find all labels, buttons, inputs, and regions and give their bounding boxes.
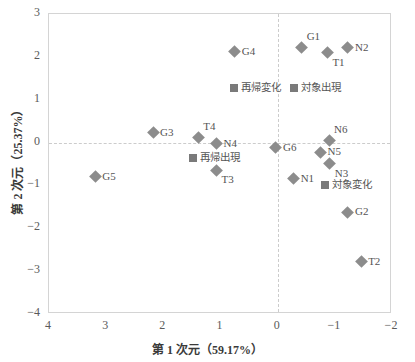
diamond-marker-icon — [295, 41, 308, 54]
diamond-marker-icon — [355, 255, 368, 268]
data-point-label: T4 — [203, 121, 215, 132]
x-tick-label: −2 — [371, 318, 411, 333]
data-point-label: T1 — [332, 57, 344, 68]
data-point-label: G4 — [242, 46, 255, 57]
x-tick-label: 4 — [28, 318, 68, 333]
y-tick-label: 3 — [8, 5, 40, 20]
data-point-label: 再帰出現 — [200, 152, 240, 163]
diamond-marker-icon — [89, 170, 102, 183]
data-point-label: T3 — [221, 174, 233, 185]
diamond-marker-icon — [342, 206, 355, 219]
data-point-label: T2 — [368, 256, 380, 267]
data-point-label: N2 — [355, 42, 368, 53]
diamond-marker-icon — [287, 172, 300, 185]
diamond-marker-icon — [228, 45, 241, 58]
x-tick-label: 2 — [142, 318, 182, 333]
diamond-marker-icon — [342, 41, 355, 54]
gridline-x-zero — [278, 14, 279, 312]
x-tick-label: 0 — [257, 318, 297, 333]
data-point-label: 対象出現 — [301, 82, 341, 93]
data-point-label: G2 — [355, 206, 368, 217]
scatter-chart: G4G1T1N2G3T4N4T3G6N6N5N3N1G5G2T2再帰変化対象出現… — [0, 0, 415, 362]
y-tick-label: −4 — [8, 305, 40, 320]
data-point-label: N1 — [301, 173, 314, 184]
square-marker-icon — [290, 84, 298, 92]
x-tick-label: −1 — [314, 318, 354, 333]
data-point-label: N3 — [335, 168, 348, 179]
y-axis-title: 第 2 次元（25.37%） — [8, 49, 26, 269]
data-point-label: N5 — [328, 146, 341, 157]
data-point-label: N4 — [223, 138, 236, 149]
diamond-marker-icon — [314, 146, 327, 159]
data-point-label: 再帰変化 — [241, 82, 281, 93]
plot-area: G4G1T1N2G3T4N4T3G6N6N5N3N1G5G2T2再帰変化対象出現… — [48, 13, 391, 313]
data-point-label: G5 — [102, 171, 115, 182]
square-marker-icon — [189, 154, 197, 162]
x-tick-label: 1 — [200, 318, 240, 333]
data-point-label: N6 — [334, 124, 347, 135]
data-point-label: 対象変化 — [332, 179, 372, 190]
square-marker-icon — [321, 181, 329, 189]
data-point-label: G6 — [283, 142, 296, 153]
x-tick-label: 3 — [85, 318, 125, 333]
x-axis-title: 第 1 次元（59.17%） — [0, 340, 415, 358]
data-point-label: G3 — [160, 127, 173, 138]
data-point-label: G1 — [307, 31, 320, 42]
diamond-marker-icon — [147, 126, 160, 139]
square-marker-icon — [230, 84, 238, 92]
diamond-marker-icon — [210, 137, 223, 150]
